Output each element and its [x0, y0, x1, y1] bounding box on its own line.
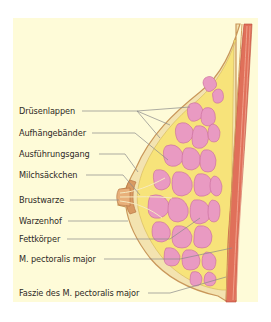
label-fettkoerper: Fettkörper [19, 234, 60, 244]
label-brustwarze: Brustwarze [19, 195, 64, 205]
breast-anatomy-figure: Drüsenlappen Aufhängebänder Ausführungsg… [0, 0, 271, 322]
label-milchsaeckchen: Milchsäckchen [19, 170, 77, 180]
breast-cross-section-illustration [0, 0, 271, 322]
label-warzenhof: Warzenhof [19, 216, 62, 226]
label-aufhaengebaender: Aufhängebänder [19, 128, 86, 138]
label-ausfuehrungsgang: Ausführungsgang [19, 149, 90, 159]
label-m-pectoralis-major: M. pectoralis major [19, 254, 96, 264]
label-druesenlappen: Drüsenlappen [19, 106, 75, 116]
label-faszie-m-pectoralis-major: Faszie des M. pectoralis major [19, 288, 139, 298]
